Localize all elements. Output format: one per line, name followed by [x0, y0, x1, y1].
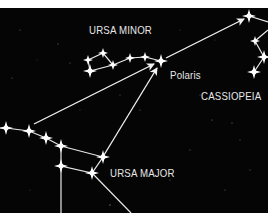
polaris-star — [154, 54, 168, 68]
constellation-diagram — [0, 8, 268, 213]
cassiopeia-lines — [249, 16, 268, 72]
star-chart: URSA MINOR Polaris CASSIOPEIA URSA MAJOR — [0, 8, 268, 213]
ursa-major-label: URSA MAJOR — [110, 167, 175, 179]
ursa-minor-label: URSA MINOR — [89, 24, 152, 36]
arrow-polaris-to-cassiopeia — [166, 19, 244, 58]
polaris-label: Polaris — [170, 69, 201, 81]
arrow-handle-to-polaris — [34, 64, 154, 124]
cassiopeia-label: CASSIOPEIA — [201, 90, 261, 102]
cassiopeia-stars — [242, 9, 268, 79]
arrow-bowl-to-polaris — [104, 68, 157, 155]
ursa-minor-lines — [88, 53, 161, 71]
pointer-arrows — [34, 19, 244, 155]
